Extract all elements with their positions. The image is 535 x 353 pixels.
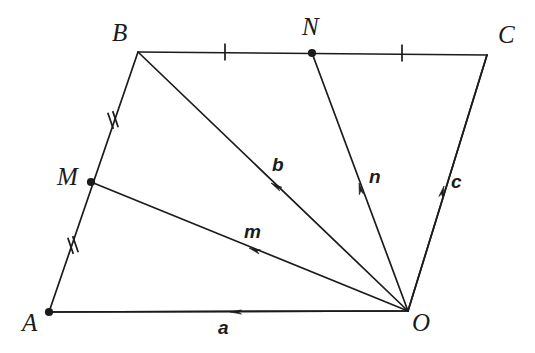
vector-label-a: a — [218, 318, 229, 337]
vector-label-m: m — [244, 222, 261, 241]
point-label-b: B — [112, 20, 127, 45]
point-label-c: C — [498, 22, 515, 47]
tick-BM-stroke — [108, 113, 114, 129]
vector-c-line — [408, 55, 487, 311]
edges-group — [49, 52, 487, 312]
point-label-a: A — [22, 310, 37, 335]
point-label-n: N — [302, 14, 319, 39]
vector-label-c: c — [451, 172, 462, 191]
geometry-figure: ABCOMN ambnc — [0, 0, 535, 353]
tick-MA-stroke — [73, 236, 79, 252]
vertex-dot-a — [45, 308, 53, 316]
vector-label-b: b — [272, 155, 284, 174]
vectors-group — [49, 52, 487, 312]
tick-marks-group — [68, 44, 402, 254]
point-label-o: O — [412, 310, 430, 335]
vector-a-line — [49, 311, 408, 312]
vector-m-line — [91, 182, 408, 311]
vector-label-n: n — [369, 167, 381, 186]
vector-n-line — [312, 53, 408, 311]
vertex-dot-m — [87, 178, 95, 186]
vertex-dots-group — [45, 49, 316, 316]
point-label-m: M — [57, 164, 78, 189]
vector-b-line — [138, 52, 408, 311]
vertex-dot-n — [308, 49, 316, 57]
